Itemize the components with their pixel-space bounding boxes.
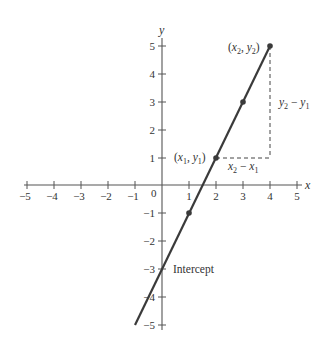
- y-tick-label: 3: [150, 96, 156, 108]
- point-x2-y2: [267, 43, 273, 49]
- slope-diagram: −5 −4 −3 −2 −1 1 2 3 4 5 x 5: [0, 0, 328, 349]
- x-axis: −5 −4 −3 −2 −1 1 2 3 4 5 x: [19, 178, 311, 202]
- x-tick-label: −1: [127, 190, 139, 202]
- x-tick-label: 4: [267, 190, 273, 202]
- run-label: x2 − x1: [227, 160, 258, 175]
- y-tick-label: 5: [150, 40, 156, 52]
- diagram-canvas: −5 −4 −3 −2 −1 1 2 3 4 5 x 5: [0, 0, 328, 349]
- x-tick-label: −5: [19, 190, 31, 202]
- point-x2-y2-label: (x2, y2): [228, 41, 260, 56]
- x-tick-label: −2: [100, 190, 112, 202]
- y-tick-label: −1: [143, 207, 155, 219]
- y-tick-label: −2: [143, 235, 155, 247]
- y-tick-label: 2: [150, 124, 156, 136]
- x-tick-label: 1: [186, 190, 192, 202]
- intercept-label: Intercept: [173, 263, 215, 276]
- x-tick-label: 5: [294, 190, 300, 202]
- x-tick-label: −3: [73, 190, 85, 202]
- origin-label: 0: [151, 187, 157, 199]
- x-tick-label: 3: [240, 190, 246, 202]
- y-tick-label: −3: [143, 263, 155, 275]
- point-3-3: [240, 99, 246, 105]
- x-axis-label: x: [304, 178, 311, 192]
- y-tick-label: 4: [150, 68, 156, 80]
- point-x1-y1-label: (x1, y1): [174, 151, 206, 166]
- y-tick-label: −5: [143, 319, 155, 331]
- x-tick-label: 2: [213, 190, 219, 202]
- point-x1-y1: [213, 155, 219, 161]
- point-1-neg1: [186, 210, 192, 216]
- y-tick-label: 1: [150, 152, 156, 164]
- y-axis-label: y: [158, 23, 165, 37]
- x-tick-label: −4: [46, 190, 58, 202]
- rise-label: y2 − y1: [278, 96, 309, 111]
- x-axis-tick-labels: −5 −4 −3 −2 −1 1 2 3 4 5: [19, 190, 300, 202]
